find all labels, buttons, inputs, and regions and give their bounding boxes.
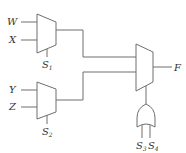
wire-mux2-out bbox=[56, 72, 136, 100]
label-z: Z bbox=[8, 101, 17, 112]
circuit-diagram: W X Y Z S1 S2 S3 S4 F bbox=[0, 0, 186, 153]
label-s2: S2 bbox=[42, 126, 53, 138]
label-s1: S1 bbox=[42, 59, 53, 71]
label-y: Y bbox=[9, 84, 17, 95]
label-s3: S3 bbox=[136, 140, 147, 152]
label-s4: S4 bbox=[148, 140, 159, 152]
mux-2 bbox=[37, 82, 56, 119]
label-w: W bbox=[7, 16, 18, 27]
mux-1 bbox=[37, 14, 56, 53]
or-gate bbox=[137, 104, 155, 127]
label-x: X bbox=[8, 34, 17, 45]
mux-3 bbox=[136, 44, 153, 91]
label-f: F bbox=[173, 62, 182, 73]
wire-mux1-out bbox=[56, 30, 136, 57]
